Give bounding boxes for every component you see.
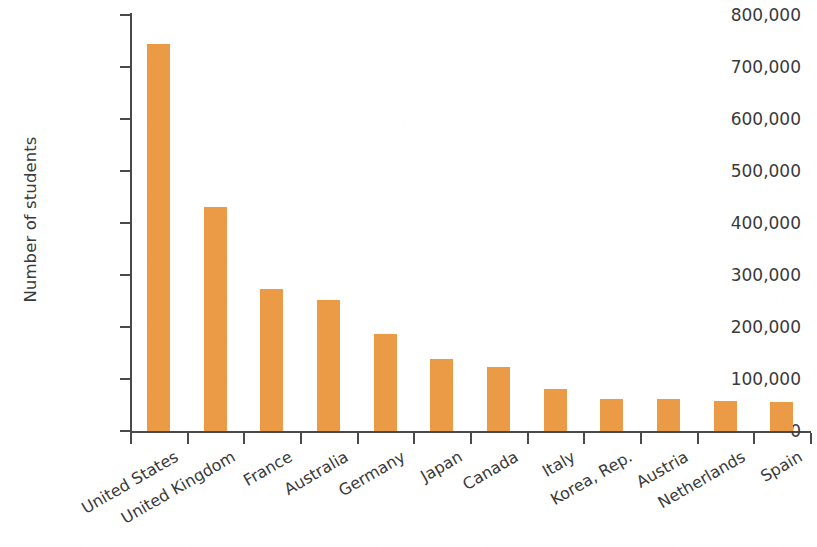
- bar: [374, 334, 397, 431]
- bar: [317, 300, 340, 431]
- bar: [544, 389, 567, 431]
- bars-layer: [0, 15, 817, 431]
- bar: [600, 399, 623, 431]
- x-axis-tick: [527, 433, 529, 444]
- x-axis-tick: [357, 433, 359, 444]
- x-axis-tick: [470, 433, 472, 444]
- bar: [204, 207, 227, 431]
- bar: [657, 399, 680, 431]
- x-axis-tick: [187, 433, 189, 444]
- bar: [260, 289, 283, 431]
- x-axis-tick: [243, 433, 245, 444]
- x-axis-tick: [413, 433, 415, 444]
- x-axis-tick: [697, 433, 699, 444]
- x-axis-tick: [130, 433, 132, 444]
- bar: [147, 44, 170, 431]
- bar: [714, 401, 737, 431]
- x-axis-tick: [300, 433, 302, 444]
- x-axis-tick: [583, 433, 585, 444]
- x-axis-tick: [810, 433, 812, 444]
- x-axis-tick: [753, 433, 755, 444]
- bar: [770, 402, 793, 431]
- bar: [430, 359, 453, 431]
- bar-chart: Number of students 0100,000200,000300,00…: [0, 0, 817, 547]
- x-axis-tick: [640, 433, 642, 444]
- bar: [487, 367, 510, 431]
